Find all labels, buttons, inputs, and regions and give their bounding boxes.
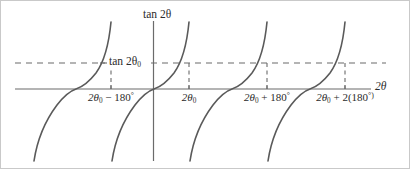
x-tick-label-2-main: 2θ [182,91,193,103]
x-tick-label-2: 2θ0 [182,92,197,106]
x-axis-label-text: 2θ [375,80,386,92]
x-tick-label-1: 2θ0 − 180° [88,92,134,106]
x-tick-label-1-deg: ° [131,91,134,100]
level-line-label-subscript: 0 [137,60,141,69]
x-tick-label-4-deg: °) [368,91,374,100]
x-tick-label-4-tail: + 2(180 [331,91,368,103]
x-tick-label-2-sub: 0 [193,97,197,105]
level-line-label: tan 2θ0 [107,56,143,69]
tangent-plot-svg [1,1,410,169]
x-axis-label: 2θ [375,81,386,93]
x-tick-label-1-main: 2θ [88,91,99,103]
x-tick-label-4-main: 2θ [316,91,327,103]
x-tick-label-3-deg: ° [287,91,290,100]
figure-container: tan 2θ 2θ tan 2θ0 2θ0 − 180° 2θ0 2θ0 + 1… [0,0,410,169]
x-tick-label-3-tail: + 180 [259,91,287,103]
level-line-label-text: tan 2θ [109,55,137,67]
x-tick-label-4: 2θ0 + 2(180°) [316,92,374,106]
x-tick-label-3: 2θ0 + 180° [244,92,290,106]
x-tick-label-1-tail: − 180 [103,91,131,103]
y-axis-label: tan 2θ [143,9,171,21]
y-axis-label-text: tan 2θ [143,8,171,20]
x-tick-label-3-main: 2θ [244,91,255,103]
